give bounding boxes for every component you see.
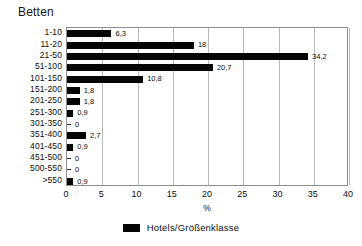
- bar: [67, 53, 308, 60]
- category-label: 401-450: [0, 142, 62, 151]
- bar-chart: Betten 6,31834,220,710,81,81,80,902,70,9…: [0, 0, 362, 246]
- x-tick-label: 15: [167, 190, 177, 199]
- bar-value-label: 10,8: [147, 75, 162, 83]
- gridline: [349, 28, 350, 185]
- bar-rows: 6,31834,220,710,81,81,80,902,70,9000,9: [67, 28, 347, 185]
- category-label: 11-20: [0, 40, 62, 49]
- category-label: 1-10: [0, 28, 62, 37]
- category-label: 51-100: [0, 62, 62, 71]
- bar-row: 2,7: [67, 130, 347, 141]
- category-axis-labels: 1-1011-2021-5051-100101-150151-200201-25…: [0, 27, 62, 186]
- x-tick-label: 20: [202, 190, 212, 199]
- bar-row: 0: [67, 119, 347, 130]
- bar-row: 0: [67, 164, 347, 175]
- bar-value-label: 0: [75, 155, 79, 163]
- bar-row: 0: [67, 153, 347, 164]
- bar-row: 6,3: [67, 28, 347, 39]
- bar-value-label: 34,2: [312, 53, 327, 61]
- category-label: >550: [0, 176, 62, 185]
- bar: [67, 87, 80, 94]
- zero-bar: [67, 158, 71, 159]
- legend: Hotels/Größenklasse: [0, 222, 362, 233]
- bar-value-label: 20,7: [217, 64, 232, 72]
- bar-value-label: 0: [75, 121, 79, 129]
- bar-value-label: 6,3: [115, 30, 125, 38]
- bar-row: 0,9: [67, 142, 347, 153]
- legend-swatch-icon: [123, 224, 140, 232]
- bar: [67, 30, 111, 37]
- category-label: 451-500: [0, 153, 62, 162]
- bar: [67, 132, 86, 139]
- category-label: 251-300: [0, 108, 62, 117]
- bar-row: 20,7: [67, 62, 347, 73]
- bar: [67, 42, 194, 49]
- plot-area: 6,31834,220,710,81,81,80,902,70,9000,9: [66, 27, 348, 186]
- bar-row: 10,8: [67, 73, 347, 84]
- bar: [67, 64, 213, 71]
- x-axis-label: %: [66, 203, 348, 213]
- bar-value-label: 1,8: [84, 87, 94, 95]
- bar-value-label: 0,9: [77, 109, 87, 117]
- category-label: 351-400: [0, 130, 62, 139]
- zero-bar: [67, 124, 71, 125]
- bar-row: 18: [67, 39, 347, 50]
- bar-value-label: 2,7: [90, 132, 100, 140]
- x-tick-label: 0: [63, 190, 68, 199]
- x-tick-label: 30: [272, 190, 282, 199]
- bar-row: 1,8: [67, 96, 347, 107]
- category-label: 201-250: [0, 96, 62, 105]
- category-label: 500-550: [0, 164, 62, 173]
- bar: [67, 76, 143, 83]
- bar-value-label: 0,9: [77, 178, 87, 186]
- zero-bar: [67, 169, 71, 170]
- chart-title: Betten: [18, 5, 54, 19]
- bar-value-label: 0,9: [77, 143, 87, 151]
- bar-value-label: 18: [198, 41, 206, 49]
- bar-row: 34,2: [67, 51, 347, 62]
- bar-row: 1,8: [67, 85, 347, 96]
- category-label: 301-350: [0, 119, 62, 128]
- category-label: 21-50: [0, 51, 62, 60]
- legend-label: Hotels/Größenklasse: [147, 222, 240, 233]
- x-tick-label: 5: [99, 190, 104, 199]
- x-tick-label: 25: [237, 190, 247, 199]
- x-tick-label: 35: [308, 190, 318, 199]
- bar: [67, 178, 73, 185]
- bar: [67, 144, 73, 151]
- bar: [67, 110, 73, 117]
- bar-value-label: 1,8: [84, 98, 94, 106]
- x-tick-label: 40: [343, 190, 353, 199]
- bar: [67, 98, 80, 105]
- bar-row: 0,9: [67, 108, 347, 119]
- category-label: 151-200: [0, 85, 62, 94]
- bar-value-label: 0: [75, 166, 79, 174]
- x-axis-ticks: 0510152025303540: [66, 186, 348, 202]
- x-tick-label: 10: [131, 190, 141, 199]
- category-label: 101-150: [0, 74, 62, 83]
